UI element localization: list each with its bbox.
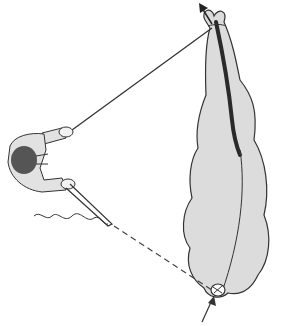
- head: [11, 146, 37, 174]
- bottom-arrow-icon: [202, 296, 216, 322]
- organ-body: [183, 10, 268, 297]
- upper-string: [72, 28, 212, 130]
- illustration: [0, 0, 283, 326]
- knot: [211, 284, 225, 296]
- person-figure: [8, 127, 75, 192]
